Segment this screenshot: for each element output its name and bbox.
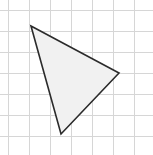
triangle-grid-figure	[0, 0, 153, 155]
figure-container	[0, 0, 153, 155]
